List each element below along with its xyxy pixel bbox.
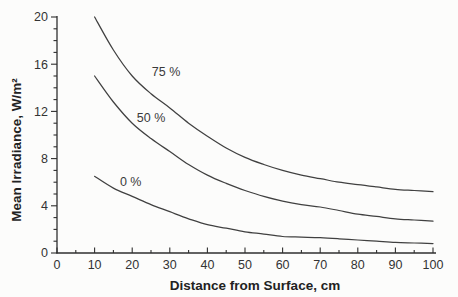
x-tick-label: 80 [351,258,365,272]
x-axis-title: Distance from Surface, cm [170,278,340,293]
x-tick-label: 100 [423,258,444,272]
x-tick-label: 20 [125,258,139,272]
y-tick-label: 12 [34,105,48,119]
x-tick-label: 50 [238,258,252,272]
x-tick-label: 60 [276,258,290,272]
y-tick-label: 8 [41,152,48,166]
curve-50pct [95,76,433,221]
y-tick-label: 4 [41,199,48,213]
x-tick-label: 90 [388,258,402,272]
y-axis-title: Mean Irradiance, W/m² [9,78,24,222]
x-tick-label: 70 [313,258,327,272]
y-tick-label: 0 [41,246,48,260]
curve-75pct [95,17,433,192]
curve-label-75pct: 75 % [152,65,181,79]
curves [95,17,433,244]
curve-label-50pct: 50 % [137,111,166,125]
y-axis: 048121620 [34,10,57,260]
curve-label-0pct: 0 % [120,175,142,189]
x-tick-label: 10 [88,258,102,272]
irradiance-vs-distance-chart: 048121620 0102030405060708090100 75 %50 … [0,0,458,297]
chart-svg: 048121620 0102030405060708090100 75 %50 … [0,0,458,297]
x-axis: 0102030405060708090100 [54,248,444,273]
x-tick-label: 40 [200,258,214,272]
curve-0pct [95,176,433,243]
y-tick-label: 20 [34,10,48,24]
x-tick-label: 30 [163,258,177,272]
curve-labels: 75 %50 %0 % [120,65,180,189]
x-tick-label: 0 [54,258,61,272]
y-tick-label: 16 [34,58,48,72]
